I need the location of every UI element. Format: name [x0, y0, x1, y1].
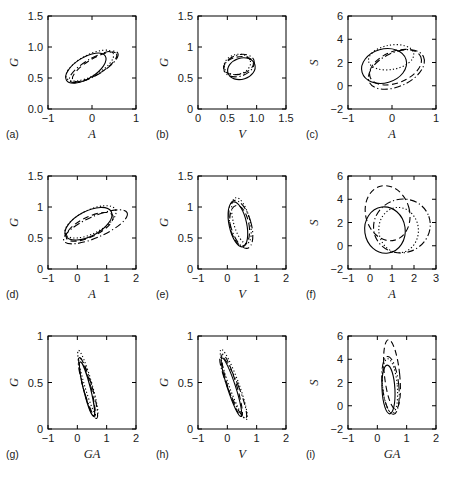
ellipse-group [61, 44, 122, 89]
panel-label-e: (e) [156, 288, 169, 300]
y-tick-label: 4 [337, 193, 343, 205]
y-tick-label: 2 [337, 57, 343, 69]
x-tick-label: −1 [192, 432, 205, 444]
y-tick-label: 1.5 [28, 10, 43, 22]
ellipse-group [357, 41, 430, 97]
x-tick-label: 0 [195, 112, 201, 124]
y-tick-label: 1 [187, 41, 193, 53]
panel-g: −101200.51GAG(g) [0, 320, 150, 483]
panel-label-a: (a) [6, 128, 19, 140]
axes-frame [48, 176, 136, 269]
x-tick-label: 1 [433, 112, 439, 124]
x-tick-label: −1 [342, 272, 355, 284]
x-tick-label: 0 [74, 272, 80, 284]
x-tick-label: 2 [411, 272, 417, 284]
x-axis-label: GA [384, 447, 401, 461]
panel-label-f: (f) [306, 288, 316, 300]
x-tick-label: −1 [192, 272, 205, 284]
y-tick-label: 0 [37, 423, 43, 435]
y-tick-label: 0 [337, 80, 343, 92]
ellipse-dashed [222, 54, 255, 77]
x-tick-label: 2 [283, 432, 289, 444]
x-tick-label: 0 [224, 432, 230, 444]
y-axis-label: G [7, 378, 21, 387]
x-tick-label: 2 [433, 432, 439, 444]
panel-e: −101200.511.5VG(e) [150, 160, 300, 323]
panel-label-i: (i) [306, 448, 315, 460]
x-tick-label: 1 [104, 272, 110, 284]
x-tick-label: 1.5 [278, 112, 293, 124]
y-axis-label: S [307, 219, 321, 226]
x-axis-label: A [387, 287, 396, 301]
y-axis-label: G [7, 218, 21, 227]
x-tick-label: 0 [374, 432, 380, 444]
x-tick-label: 0 [389, 112, 395, 124]
y-tick-label: 1.5 [28, 170, 43, 182]
y-tick-label: 1 [187, 330, 193, 342]
x-tick-label: −1 [342, 432, 355, 444]
plot-area-i: −1012−20246GAS(i) [300, 320, 450, 483]
axes-frame [198, 176, 286, 269]
y-tick-label: 0.5 [28, 377, 43, 389]
axes-frame [48, 16, 136, 109]
y-axis-label: G [157, 218, 171, 227]
ellipse-solid [60, 201, 117, 247]
ellipse-dashdot [60, 203, 132, 250]
ellipse-group [221, 50, 258, 83]
y-tick-label: 0.5 [178, 72, 193, 84]
ellipse-group [379, 339, 403, 415]
plot-area-f: −10123−20246AS(f) [300, 160, 450, 323]
x-tick-label: 2 [133, 432, 139, 444]
ellipse-dotted [366, 41, 415, 73]
x-tick-label: −1 [42, 112, 55, 124]
y-tick-label: 1.5 [178, 10, 193, 22]
panel-label-c: (c) [306, 128, 318, 140]
panel-h: −101200.51VG(h) [150, 320, 300, 483]
y-tick-label: 0 [37, 263, 43, 275]
axes-frame [198, 16, 286, 109]
x-axis-label: GA [84, 447, 101, 461]
x-tick-label: 1 [404, 432, 410, 444]
axes-frame [348, 176, 436, 269]
panel-a: −1010.00.51.01.5AG(a) [0, 0, 150, 163]
figure-container: −1010.00.51.01.5AG(a)00.51.01.500.511.5V… [0, 0, 452, 490]
y-tick-label: 0 [187, 423, 193, 435]
x-tick-label: 0.5 [220, 112, 235, 124]
ellipse-dashdot [75, 356, 101, 419]
y-tick-label: 6 [337, 330, 343, 342]
x-tick-label: 1 [254, 272, 260, 284]
y-tick-label: −2 [330, 423, 343, 435]
y-axis-label: S [307, 59, 321, 66]
ellipse-group [75, 349, 101, 419]
panel-c: −101−20246AS(c) [300, 0, 450, 163]
y-tick-label: 6 [337, 10, 343, 22]
y-tick-label: 0 [337, 240, 343, 252]
panel-i: −1012−20246GAS(i) [300, 320, 450, 483]
plot-area-c: −101−20246AS(c) [300, 0, 450, 163]
x-tick-label: 1 [389, 272, 395, 284]
panel-label-h: (h) [156, 448, 169, 460]
x-tick-label: 1 [104, 432, 110, 444]
ellipse-dashed [359, 181, 416, 246]
ellipse-dashed [218, 353, 245, 418]
x-tick-label: −1 [42, 272, 55, 284]
y-tick-label: 0.5 [28, 232, 43, 244]
ellipse-dashdot [221, 50, 258, 81]
y-tick-label: 0.5 [28, 72, 43, 84]
y-tick-label: 4 [337, 33, 343, 45]
x-tick-label: 1.0 [249, 112, 264, 124]
y-axis-label: G [157, 58, 171, 67]
x-tick-label: 0 [74, 432, 80, 444]
y-tick-label: 2 [337, 217, 343, 229]
y-tick-label: 0.5 [178, 232, 193, 244]
panel-label-b: (b) [156, 128, 169, 140]
ellipse-dashed [62, 207, 117, 247]
x-axis-label: V [238, 447, 247, 461]
panel-f: −10123−20246AS(f) [300, 160, 450, 323]
x-tick-label: 0 [224, 272, 230, 284]
y-tick-label: 0.0 [28, 103, 43, 115]
ellipse-group [60, 199, 132, 250]
ellipse-group [224, 196, 257, 251]
x-axis-label: A [87, 127, 96, 141]
plot-area-b: 00.51.01.500.511.5VG(b) [150, 0, 300, 163]
